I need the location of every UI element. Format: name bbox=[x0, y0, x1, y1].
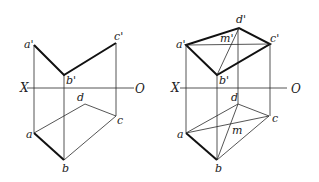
right-label-d: d bbox=[231, 91, 238, 104]
right-x-label: X bbox=[170, 81, 180, 95]
right-top-ac-diagonal bbox=[186, 116, 269, 133]
right-top-ab bbox=[186, 133, 217, 160]
right-o-label: O bbox=[291, 82, 301, 96]
left-x-label: X bbox=[19, 81, 29, 95]
right-label-b: b bbox=[215, 162, 222, 175]
projection-diagram: X O a' b' c' a b c d X O a' b' c' d' m' … bbox=[0, 0, 319, 182]
left-front-view bbox=[34, 43, 116, 75]
left-top-ab bbox=[34, 133, 64, 160]
right-label-m: m bbox=[232, 124, 242, 137]
right-label-d-prime: d' bbox=[236, 13, 246, 26]
right-label-a-prime: a' bbox=[176, 38, 186, 51]
left-label-b-prime: b' bbox=[66, 74, 76, 87]
right-label-m-prime: m' bbox=[220, 32, 233, 45]
right-figure: X O a' b' c' d' m' a b c d m bbox=[170, 13, 301, 175]
left-top-bcda bbox=[34, 104, 116, 160]
left-label-a-prime: a' bbox=[24, 38, 34, 51]
right-label-c-prime: c' bbox=[270, 32, 279, 45]
left-label-c-prime: c' bbox=[114, 30, 123, 43]
left-figure: X O a' b' c' a b c d bbox=[19, 30, 145, 175]
left-label-b: b bbox=[62, 162, 69, 175]
left-label-d: d bbox=[77, 91, 84, 104]
right-label-b-prime: b' bbox=[219, 74, 229, 87]
right-label-a: a bbox=[177, 128, 184, 141]
left-label-c: c bbox=[117, 114, 123, 127]
left-o-label: O bbox=[135, 82, 145, 96]
left-label-a: a bbox=[26, 128, 33, 141]
right-label-c: c bbox=[272, 112, 278, 125]
